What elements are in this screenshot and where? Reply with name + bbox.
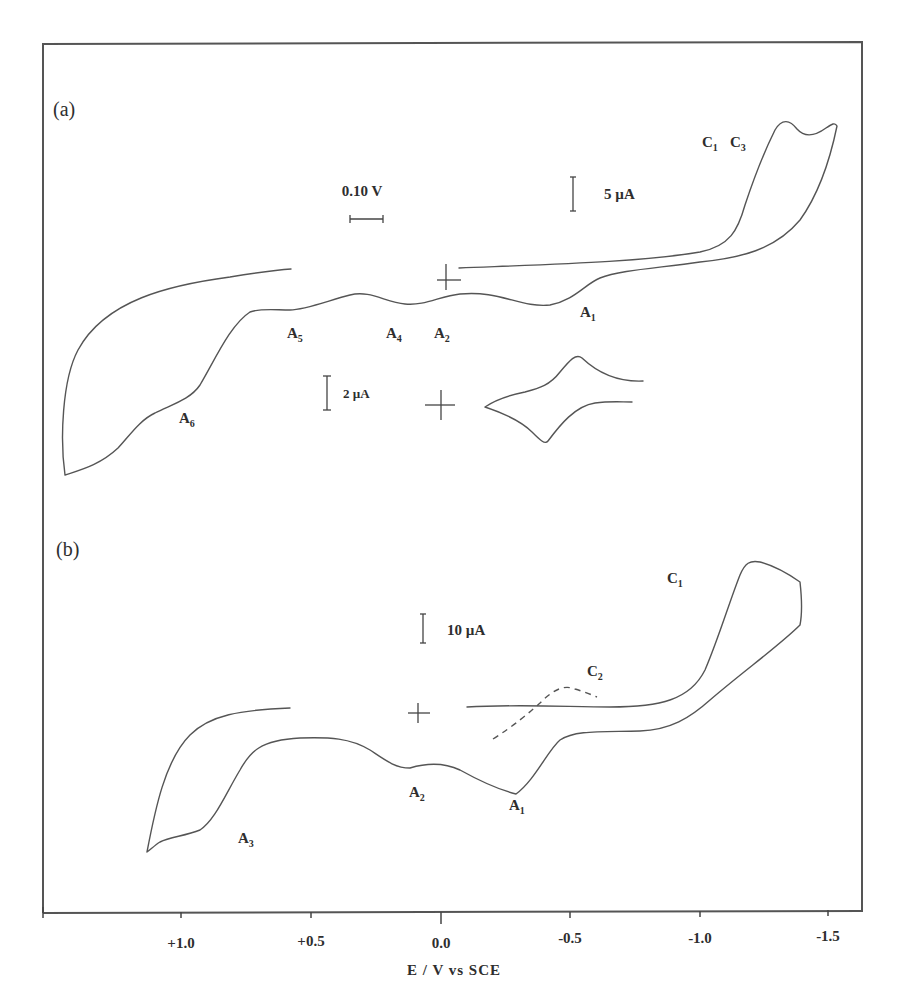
tick-label: -1.5 xyxy=(816,928,840,944)
panel-a-scale-2ua: 2 µA xyxy=(323,376,370,410)
panel-a-origin-cross xyxy=(437,264,461,290)
scale-label-2ua: 2 µA xyxy=(343,386,370,401)
panel-a-peak-labels: C1 C3 A1 A2 A4 A5 A6 xyxy=(179,134,746,429)
x-axis-title: E / V vs SCE xyxy=(407,962,501,978)
peak-label-a5: A5 xyxy=(287,325,303,344)
cyclic-voltammogram-figure: +1.0 +0.5 0.0 -0.5 -1.0 -1.5 E / V vs SC… xyxy=(0,0,907,1008)
peak-label-a4: A4 xyxy=(386,325,402,344)
peak-label-c1: C1 xyxy=(667,570,683,589)
peak-label-a2: A2 xyxy=(409,784,425,803)
panel-a-inset-origin-cross xyxy=(425,390,455,420)
x-axis-line xyxy=(43,911,862,913)
panel-b-peak-labels: C1 C2 A1 A2 A3 xyxy=(238,570,683,849)
peak-label-a3: A3 xyxy=(238,830,254,849)
panel-b-dashed-trace xyxy=(493,687,597,739)
peak-label-c3: C3 xyxy=(730,134,746,153)
tick-label: +1.0 xyxy=(167,935,194,951)
tick-label: +0.5 xyxy=(297,933,324,949)
peak-label-c1: C1 xyxy=(702,134,718,153)
panel-a-scale-5ua: 5 µA xyxy=(570,177,635,211)
x-axis-tick-labels: +1.0 +0.5 0.0 -0.5 -1.0 -1.5 xyxy=(167,928,840,951)
peak-label-a1: A1 xyxy=(580,304,596,323)
panel-b-scale-10ua: 10 µA xyxy=(420,614,485,643)
panel-b-origin-cross xyxy=(408,703,430,723)
chart-canvas: +1.0 +0.5 0.0 -0.5 -1.0 -1.5 E / V vs SC… xyxy=(0,0,907,1008)
panel-a-inset-voltammogram xyxy=(485,356,643,442)
panel-b-label: (b) xyxy=(56,538,79,561)
scale-label-5ua: 5 µA xyxy=(604,186,635,202)
tick-label: -1.0 xyxy=(688,930,712,946)
tick-label: 0.0 xyxy=(432,935,451,951)
x-axis-ticks xyxy=(43,907,828,924)
scale-label-0-10v: 0.10 V xyxy=(342,183,383,199)
peak-label-a2: A2 xyxy=(434,325,450,344)
peak-label-a6: A6 xyxy=(179,410,195,429)
peak-label-a1: A1 xyxy=(509,797,525,816)
panel-a-scale-0-10v: 0.10 V xyxy=(342,183,383,223)
peak-label-c2: C2 xyxy=(587,663,603,682)
panel-b-main-voltammogram xyxy=(147,561,802,852)
scale-label-10ua: 10 µA xyxy=(447,622,485,638)
plot-frame xyxy=(43,42,862,913)
panel-a-label: (a) xyxy=(53,98,75,121)
tick-label: -0.5 xyxy=(558,930,582,946)
